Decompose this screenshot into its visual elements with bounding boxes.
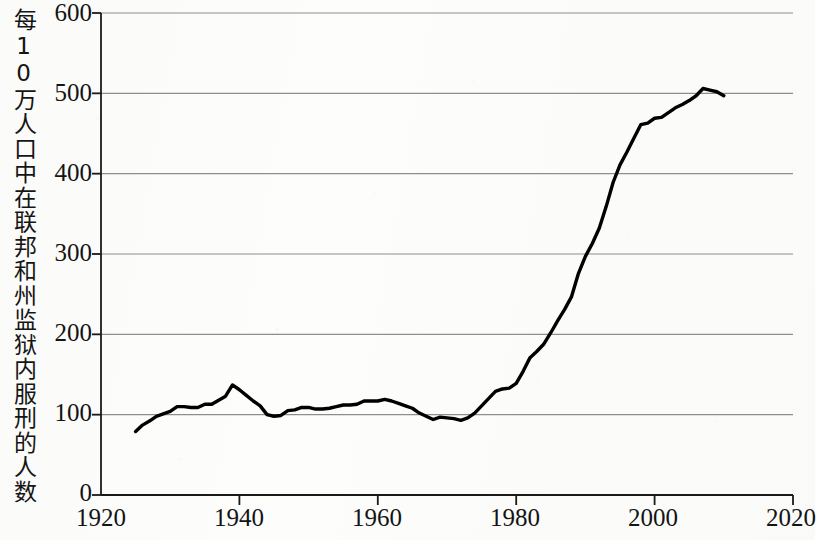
- data-series-line: [136, 89, 724, 432]
- axis-ticks-group: [92, 13, 793, 505]
- gridlines-group: [101, 13, 793, 495]
